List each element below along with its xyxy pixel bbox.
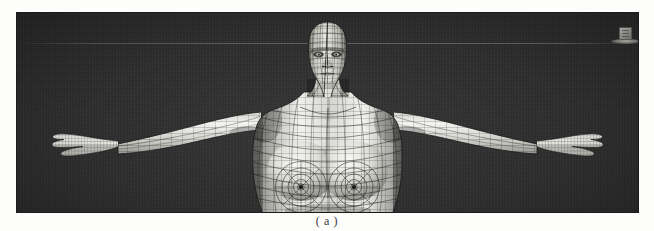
- left-hand: [47, 128, 127, 163]
- prop-cube-face: [622, 30, 629, 37]
- figure-root: ( a ): [0, 0, 654, 231]
- figure-caption: ( a ): [0, 212, 654, 231]
- left-arm: [112, 108, 272, 163]
- human-body-model: [17, 13, 638, 212]
- prop-cube: [619, 27, 632, 40]
- right-arm: [383, 108, 543, 163]
- right-hand: [528, 128, 608, 163]
- reference-cube-prop: [611, 27, 638, 49]
- torso: [246, 88, 410, 212]
- viewport-3d: [17, 13, 638, 212]
